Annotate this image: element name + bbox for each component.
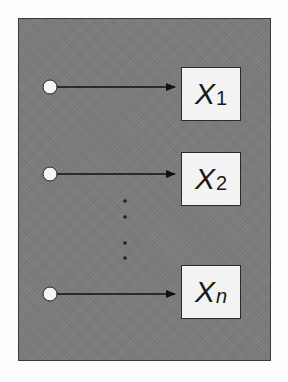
variable-box-xn: Xn	[181, 265, 241, 319]
variable-box-x2: X2	[181, 152, 241, 206]
dot-icon	[123, 215, 127, 219]
variable-box-x1: X1	[181, 67, 241, 121]
input-row-n	[43, 287, 175, 301]
input-row-1	[43, 80, 175, 94]
input-node-icon	[43, 287, 57, 301]
variable-symbol: X	[195, 79, 215, 109]
input-node-icon	[43, 80, 57, 94]
variable-subscript: 1	[216, 88, 227, 108]
variable-symbol: X	[195, 277, 215, 307]
dot-icon	[123, 256, 127, 260]
dot-icon	[123, 199, 127, 203]
variable-symbol: X	[195, 164, 215, 194]
ellipsis-dots	[123, 199, 127, 260]
variable-subscript: n	[216, 286, 227, 306]
dot-icon	[123, 241, 127, 245]
variable-subscript: 2	[216, 173, 227, 193]
input-row-2	[43, 167, 175, 181]
arrows-layer	[0, 0, 288, 382]
input-node-icon	[43, 167, 57, 181]
